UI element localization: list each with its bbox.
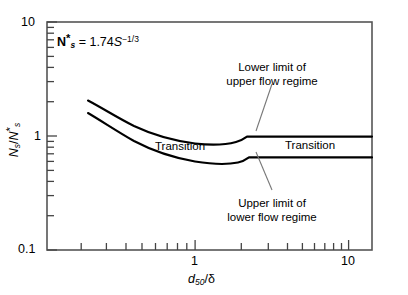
callout-lower-line1: Upper limit of — [206, 196, 338, 210]
x-tick-label-1: 1 — [191, 255, 198, 268]
y-axis-title-denominator: N — [7, 131, 21, 140]
transition-label-left: Transition — [155, 141, 205, 153]
equation-exponent: −1/3 — [122, 34, 139, 44]
callout-lower-line2: lower flow regime — [206, 210, 338, 224]
equation-annotation: N*s = 1.74S−1/3 — [57, 33, 139, 50]
equation-equals: = — [79, 35, 86, 49]
y-axis-title-star: * — [4, 127, 16, 131]
x-axis-title-main: d — [188, 272, 195, 286]
y-tick-label-1: 1 — [34, 130, 41, 143]
equation-lhs-sub: s — [70, 40, 75, 50]
callout-lower-limit-upper-flow-regime: Lower limit of upper flow regime — [206, 60, 338, 88]
callout-upper-limit-lower-flow-regime: Upper limit of lower flow regime — [206, 196, 338, 224]
y-axis-title: Ns/N*s — [2, 104, 24, 176]
equation-variable: S — [114, 35, 122, 49]
y-axis-title-numerator: N — [7, 148, 21, 157]
equation-lhs-symbol: N — [57, 35, 66, 49]
x-axis-title-sub: 50 — [195, 277, 204, 287]
y-axis-title-slash: / — [7, 140, 21, 143]
y-axis-title-denominator-sub: s — [12, 123, 22, 127]
y-tick-label-10: 10 — [21, 16, 35, 29]
chart-figure: 10 1 0.1 1 10 Ns/N*s d50/δ N*s = 1.74S−1… — [0, 0, 408, 295]
callout-upper-line1: Lower limit of — [206, 60, 338, 74]
x-axis-title-tail: /δ — [204, 272, 214, 286]
y-tick-label-0-1: 0.1 — [18, 243, 35, 256]
transition-label-right: Transition — [285, 140, 335, 152]
callout-upper-line2: upper flow regime — [206, 74, 338, 88]
x-axis-title: d50/δ — [188, 273, 215, 287]
y-axis-title-numerator-sub: s — [12, 144, 22, 148]
equation-coefficient: 1.74 — [89, 35, 113, 49]
x-tick-label-10: 10 — [341, 255, 355, 268]
